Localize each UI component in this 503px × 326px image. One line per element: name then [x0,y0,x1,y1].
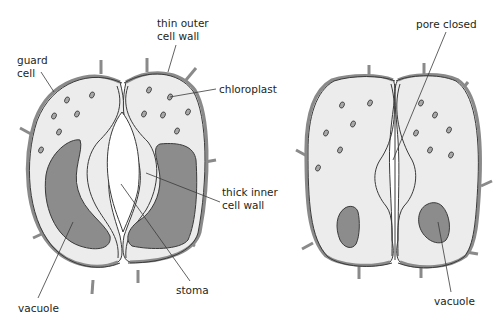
stomata-diagram: thin outer cell wall guard cell chloropl… [0,0,503,326]
label-thick-inner-wall-line2: cell wall [222,199,264,211]
label-chloroplast: chloroplast [219,83,277,95]
label-pore-closed: pore closed [416,18,477,30]
open-stoma: thin outer cell wall guard cell chloropl… [17,17,279,314]
label-thin-outer-wall-line1: thin outer [157,17,209,29]
label-vacuole-open: vacuole [18,302,59,314]
closed-left-vacuole [337,206,359,247]
label-guard-cell-line1: guard [17,54,48,66]
label-stoma: stoma [176,284,209,296]
label-thin-outer-wall-line2: cell wall [157,30,199,42]
closed-stoma: pore closed vacuole [296,18,492,307]
label-guard-cell-line2: cell [17,67,35,79]
closed-right-guard-cell [395,75,481,268]
label-vacuole-closed: vacuole [434,295,475,307]
label-thick-inner-wall-line1: thick inner [222,186,279,198]
closed-left-guard-cell [306,76,395,267]
